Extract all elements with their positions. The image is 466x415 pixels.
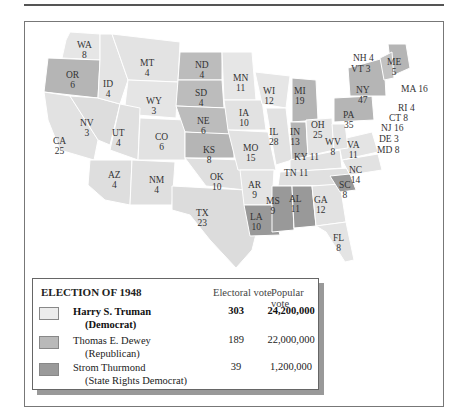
- label-ut: UT4: [112, 128, 125, 148]
- candidate-name: Harry S. Truman(Democrat): [73, 305, 151, 331]
- label-ca: CA25: [53, 136, 66, 156]
- popular-vote: 22,000,000: [261, 334, 321, 345]
- electoral-vote: 189: [221, 334, 251, 345]
- label-nj: NJ 16: [381, 123, 403, 133]
- electoral-vote: 39: [221, 361, 251, 372]
- legend-title: ELECTION OF 1948: [41, 286, 141, 298]
- label-ne: NE6: [197, 116, 210, 136]
- label-az: AZ4: [108, 170, 121, 190]
- swatch-democrat: [39, 307, 59, 320]
- label-mn: MN11: [233, 73, 248, 93]
- label-ga: GA12: [314, 195, 328, 215]
- candidate-row-thurmond: Strom Thurmond(State Rights Democrat) 39…: [33, 359, 318, 393]
- label-ms: MS9: [266, 196, 280, 216]
- label-vt: VT 3: [351, 64, 371, 74]
- label-nh: NH 4: [353, 53, 374, 63]
- label-ri: RI 4: [398, 103, 415, 113]
- label-ar: AR9: [248, 180, 261, 200]
- label-wi: WI12: [263, 86, 275, 106]
- label-tx: TX23: [196, 208, 209, 228]
- label-wy: WY3: [146, 96, 162, 116]
- label-ks: KS8: [203, 145, 215, 165]
- label-me: ME5: [387, 57, 401, 77]
- label-ok: OK10: [210, 172, 224, 192]
- label-id: ID4: [103, 79, 113, 99]
- label-al: AL11: [289, 194, 302, 214]
- electoral-vote: 303: [221, 305, 251, 316]
- popular-vote: 1,200,000: [261, 361, 321, 372]
- label-ma: MA 16: [401, 84, 428, 94]
- candidate-name: Thomas E. Dewey(Republican): [73, 334, 151, 360]
- label-nv: NV3: [80, 118, 94, 138]
- label-nd: ND4: [195, 60, 209, 80]
- label-la: LA10: [250, 212, 263, 232]
- label-ny: NY47: [356, 85, 370, 105]
- label-co: CO6: [155, 132, 168, 152]
- label-wv: WV8: [325, 137, 341, 157]
- label-nm: NM4: [149, 175, 164, 195]
- label-tn: TN 11: [284, 168, 308, 178]
- label-va: VA11: [347, 140, 360, 160]
- election-legend: ELECTION OF 1948 Electoral vote Popular …: [32, 278, 319, 390]
- label-wa: WA8: [77, 40, 92, 60]
- swatch-republican: [39, 336, 59, 349]
- label-il: IL28: [269, 127, 279, 147]
- electoral-vote-header: Electoral vote: [213, 287, 272, 298]
- label-mo: MO15: [243, 143, 258, 163]
- label-mi: MI19: [294, 86, 306, 106]
- label-fl: FL8: [333, 233, 344, 253]
- label-sd: SD4: [195, 88, 207, 108]
- label-nc: NC14: [349, 165, 362, 185]
- popular-vote: 24,200,000: [261, 305, 321, 316]
- label-ia: IA10: [239, 108, 249, 128]
- label-ct: CT 8: [389, 113, 408, 123]
- label-ky: KY 11: [294, 152, 319, 162]
- label-or: OR6: [66, 70, 79, 90]
- label-md: MD 8: [377, 145, 399, 155]
- candidate-name: Strom Thurmond(State Rights Democrat): [73, 361, 187, 387]
- label-in: IN13: [290, 127, 300, 147]
- swatch-state-rights: [39, 363, 59, 376]
- label-oh: OH25: [311, 120, 325, 140]
- label-pa: PA35: [343, 110, 354, 130]
- label-de: DE 3: [379, 134, 399, 144]
- label-mt: MT4: [140, 58, 154, 78]
